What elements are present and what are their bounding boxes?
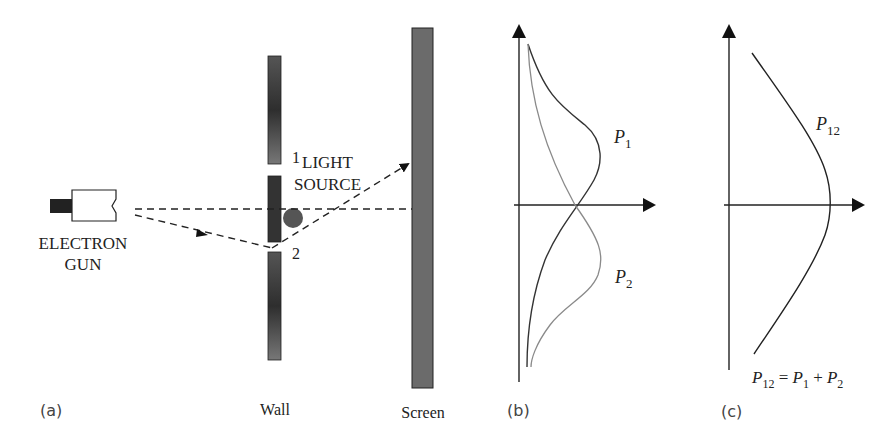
light-source — [283, 208, 303, 228]
incoming-path-dashed — [135, 215, 272, 248]
light-source-label-line2: SOURCE — [294, 175, 361, 194]
caption-c: (c) — [721, 402, 742, 421]
gun-label-line1: ELECTRON — [39, 234, 128, 253]
electron-gun — [50, 190, 116, 221]
panel-b-axes — [512, 24, 656, 382]
screen-label: Screen — [401, 404, 445, 421]
curve-p12 — [752, 53, 830, 354]
x-axis-arrow-icon — [852, 198, 865, 212]
diagram-canvas: ELECTRON GUN 1 LIGHT SOURCE 2 (a) Wall S… — [0, 0, 893, 446]
gun-body — [72, 190, 116, 221]
slit-1-label: 1 — [292, 149, 300, 166]
wall-label: Wall — [260, 401, 290, 418]
panel-c-axes — [722, 24, 865, 370]
x-axis-arrow-icon — [643, 198, 656, 212]
y-axis-arrow-icon — [722, 24, 736, 38]
p2-label: P2 — [614, 267, 633, 291]
electron-two-slit-diagram: ELECTRON GUN 1 LIGHT SOURCE 2 (a) Wall S… — [0, 0, 893, 446]
p12-label: P12 — [815, 114, 840, 138]
gun-label-line2: GUN — [65, 255, 102, 274]
caption-b: (b) — [507, 401, 530, 420]
wall — [268, 56, 281, 360]
screen — [412, 28, 433, 388]
sum-equation: P12 = P1 + P2 — [751, 368, 843, 391]
caption-a: (a) — [40, 401, 62, 420]
wall-segment-bottom — [268, 252, 281, 360]
wall-segment-top — [268, 56, 281, 164]
p1-label: P1 — [613, 127, 632, 151]
y-axis-arrow-icon — [512, 24, 526, 38]
slit-2-label: 2 — [292, 245, 300, 262]
path-arrow-icon — [196, 229, 208, 237]
light-source-label-line1: LIGHT — [302, 153, 354, 172]
